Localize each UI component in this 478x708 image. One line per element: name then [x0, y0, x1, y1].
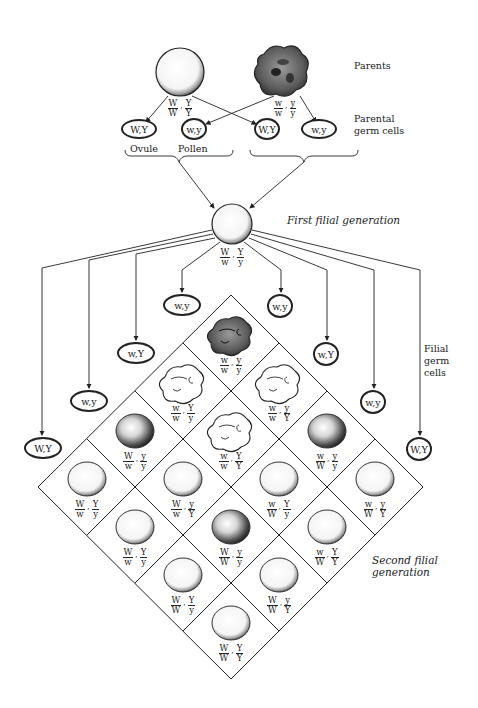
label-parental-germ-cells-2: germ cells [354, 125, 404, 137]
grid-cell-genotype: ww,Yy [166, 402, 200, 424]
parent-wrinkled-genotype: ww, yy [268, 97, 302, 119]
parental-gamete-pollen: w,y [181, 118, 207, 140]
grid-seed-wrinkled [255, 365, 299, 404]
label-ovule: Ovule [130, 143, 158, 155]
grid-cell-genotype: WW,YY [214, 642, 248, 664]
grid-cell-genotype: Ww,yY [166, 498, 200, 520]
filial-gamete-left-2: w,y [70, 390, 108, 412]
label-second-filial-1: Second filial [372, 554, 438, 566]
parent-wrinkled-seed [254, 46, 308, 96]
grid-seed-wrinkled [207, 413, 251, 452]
label-second-filial-2: generation [372, 566, 430, 578]
grid-cell-genotype: Ww,Yy [70, 498, 104, 520]
f1-genotype: Ww, Yy [215, 246, 249, 268]
filial-gamete-right-4: W,Y [406, 437, 432, 461]
f1-seed [212, 204, 252, 244]
label-first-filial-generation: First filial generation [287, 214, 400, 226]
grid-seed-round [164, 462, 202, 496]
label-filial-germ-cells-2: germ [424, 355, 449, 367]
label-filial-germ-cells-3: cells [424, 367, 446, 379]
parent-round-genotype: WW, YY [163, 97, 197, 119]
mendel-dihybrid-diagram: Parents Parental germ cells Ovule Pollen… [0, 0, 478, 708]
filial-gamete-left-1: W,Y [24, 437, 62, 459]
grid-cell-genotype: WW,yy [214, 546, 248, 568]
grid-cell-genotype: WW,yY [262, 594, 296, 616]
filial-gamete-left-3: w,Y [117, 342, 155, 364]
parental-gamete-4: w,y [301, 119, 337, 139]
filial-gamete-right-3: w,y [360, 390, 386, 414]
label-filial-germ-cells-1: Filial [424, 343, 448, 355]
grid-cell-genotype: WW,Yy [166, 594, 200, 616]
grid-cell-genotype: wW,Yy [262, 498, 296, 520]
label-parental-germ-cells-1: Parental [354, 113, 394, 125]
grid-cell-genotype: ww,yy [214, 354, 248, 376]
grid-seed-round-dark [212, 510, 250, 544]
grid-cell-genotype: Ww,Yy [118, 546, 152, 568]
parental-gamete-3: W,Y [254, 118, 280, 140]
filial-gamete-right-1: w,y [267, 294, 293, 318]
grid-seed-round [308, 510, 346, 544]
grid-seed-round [260, 462, 298, 496]
grid-seed-round-dark [116, 414, 154, 448]
right-brace [250, 150, 358, 162]
grid-cell-genotype: ww,YY [214, 450, 248, 472]
grid-seed-round-dark [308, 414, 346, 448]
parental-gamete-ovule: W,Y [121, 119, 157, 139]
grid-cell-genotype: wW,yY [358, 498, 392, 520]
grid-seed-round [68, 462, 106, 496]
grid-seed-round [356, 462, 394, 496]
grid-seed-wrinkled [159, 365, 203, 404]
filial-gamete-right-2: w,Y [313, 342, 339, 366]
label-pollen: Pollen [178, 143, 208, 155]
grid-cell-genotype: wW,yy [310, 450, 344, 472]
grid-seed-round [116, 510, 154, 544]
grid-seed-round [260, 558, 298, 592]
grid-cell-genotype: Ww,yy [118, 450, 152, 472]
label-parents: Parents [354, 60, 391, 72]
grid-seed-round [212, 606, 250, 640]
grid-seed-round [164, 558, 202, 592]
filial-gamete-left-4: w,y [163, 294, 201, 316]
grid-seed-wrinkled-dark [207, 317, 251, 356]
grid-cell-genotype: ww,yY [262, 402, 296, 424]
grid-cell-genotype: wW,YY [310, 546, 344, 568]
parent-round-seed [156, 48, 204, 96]
